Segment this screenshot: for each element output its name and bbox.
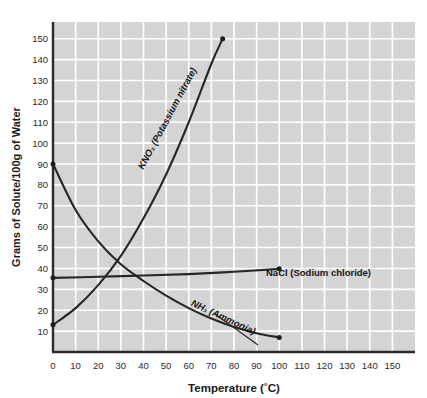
y-axis-tick-labels: 102030405060708090100110120130140150 bbox=[32, 33, 48, 336]
x-tick-label: 30 bbox=[116, 360, 127, 371]
y-tick-label: 10 bbox=[37, 326, 48, 337]
y-tick-label: 50 bbox=[37, 242, 48, 253]
x-tick-label: 50 bbox=[161, 360, 172, 371]
y-tick-label: 150 bbox=[32, 33, 48, 44]
y-tick-label: 80 bbox=[37, 179, 48, 190]
series-endpoint bbox=[51, 162, 56, 167]
x-tick-label: 70 bbox=[206, 360, 217, 371]
series-endpoint bbox=[277, 335, 282, 340]
y-tick-label: 140 bbox=[32, 54, 48, 65]
x-tick-label: 80 bbox=[229, 360, 240, 371]
x-tick-label: 120 bbox=[317, 360, 333, 371]
x-tick-label: 20 bbox=[93, 360, 104, 371]
x-tick-label: 150 bbox=[384, 360, 400, 371]
series-endpoint bbox=[51, 322, 56, 327]
y-tick-label: 30 bbox=[37, 284, 48, 295]
series-endpoint bbox=[51, 275, 56, 280]
y-axis-title: Grams of Solute/100g of Water bbox=[10, 106, 22, 266]
chart-canvas: 102030405060708090100110120130140150 010… bbox=[0, 0, 427, 398]
y-tick-label: 100 bbox=[32, 138, 48, 149]
x-tick-label: 10 bbox=[70, 360, 81, 371]
x-tick-label: 130 bbox=[339, 360, 355, 371]
y-tick-label: 40 bbox=[37, 263, 48, 274]
x-tick-label: 0 bbox=[50, 360, 55, 371]
x-tick-label: 110 bbox=[294, 360, 309, 371]
y-tick-label: 110 bbox=[33, 117, 48, 128]
y-tick-label: 90 bbox=[37, 159, 48, 170]
y-tick-label: 120 bbox=[32, 96, 48, 107]
x-tick-label: 40 bbox=[138, 360, 149, 371]
x-axis-title: Temperature (˚C) bbox=[188, 382, 280, 394]
series-label-nacl: NaCl (Sodium chloride) bbox=[266, 267, 371, 278]
x-tick-label: 90 bbox=[251, 360, 262, 371]
y-tick-label: 70 bbox=[37, 200, 48, 211]
series-endpoint bbox=[220, 36, 225, 41]
x-axis-tick-labels: 0102030405060708090100110120130140150 bbox=[50, 360, 400, 371]
y-tick-label: 20 bbox=[37, 305, 48, 316]
x-tick-label: 140 bbox=[362, 360, 378, 371]
y-tick-label: 60 bbox=[37, 221, 48, 232]
x-tick-label: 100 bbox=[271, 360, 287, 371]
y-tick-label: 130 bbox=[32, 75, 48, 86]
solubility-curve-chart: 102030405060708090100110120130140150 010… bbox=[0, 0, 427, 398]
x-tick-label: 60 bbox=[183, 360, 194, 371]
